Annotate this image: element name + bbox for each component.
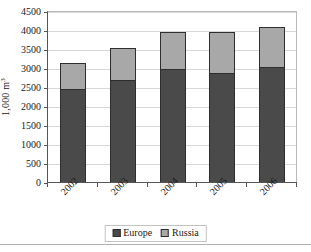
y-axis-label: 2000 [21, 102, 41, 112]
y-axis-label: 1500 [21, 121, 41, 131]
chart-figure: 1,000 m3 0500100015002000250030003500400… [0, 0, 311, 252]
y-axis-tick [44, 88, 48, 89]
bar-segment-russia[interactable] [60, 63, 86, 89]
bar-group[interactable] [259, 27, 285, 183]
y-axis-tick [44, 164, 48, 165]
x-axis-tick [147, 182, 148, 187]
bar-segment-russia[interactable] [259, 27, 285, 67]
bar-group[interactable] [160, 32, 186, 183]
y-axis-label: 4000 [21, 26, 41, 36]
legend-swatch-russia [161, 229, 169, 237]
bar-segment-europe[interactable] [259, 67, 285, 183]
chart-legend: EuropeRussia [104, 225, 207, 242]
bar-group[interactable] [110, 48, 136, 183]
y-axis-label: 1000 [21, 140, 41, 150]
x-axis-tick [97, 182, 98, 187]
y-axis-label: 3000 [21, 64, 41, 74]
y-axis-title: 1,000 m3 [0, 78, 11, 116]
bar-segment-europe[interactable] [209, 73, 235, 183]
legend-swatch-europe [112, 229, 120, 237]
y-axis-label: 0 [36, 178, 41, 188]
legend-item-europe[interactable]: Europe [112, 228, 152, 238]
x-axis-tick [296, 182, 297, 187]
plot-area: 050010001500200025003000350040004500 [47, 11, 297, 183]
y-axis-tick [44, 31, 48, 32]
x-axis-tick [47, 182, 48, 187]
x-axis-tick [196, 182, 197, 187]
y-axis-label: 2500 [21, 83, 41, 93]
y-axis-label: 4500 [21, 7, 41, 17]
bar-segment-russia[interactable] [110, 48, 136, 80]
bar-group[interactable] [60, 63, 86, 183]
legend-item-russia[interactable]: Russia [161, 228, 199, 238]
y-axis-tick [44, 145, 48, 146]
y-axis-tick [44, 12, 48, 13]
legend-label: Russia [172, 228, 199, 238]
y-axis-tick [44, 107, 48, 108]
footer-divider [0, 244, 311, 245]
y-axis-label: 500 [26, 159, 41, 169]
bar-segment-europe[interactable] [60, 89, 86, 183]
x-axis-tick [246, 182, 247, 187]
bar-segment-europe[interactable] [160, 69, 186, 183]
y-axis-tick [44, 50, 48, 51]
bar-group[interactable] [209, 32, 235, 183]
legend-label: Europe [123, 228, 152, 238]
y-axis-tick [44, 69, 48, 70]
bar-segment-russia[interactable] [209, 32, 235, 73]
y-axis-label: 3500 [21, 45, 41, 55]
gridline [48, 12, 296, 13]
bar-segment-russia[interactable] [160, 32, 186, 69]
y-axis-tick [44, 126, 48, 127]
bar-segment-europe[interactable] [110, 80, 136, 183]
